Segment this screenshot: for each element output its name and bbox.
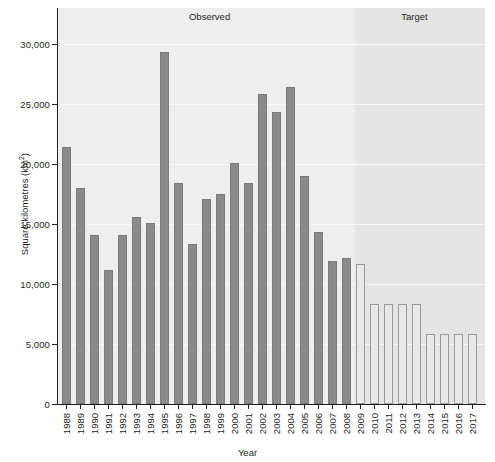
bar-2013 [412, 304, 421, 404]
x-tick-2003 [276, 405, 277, 409]
bar-2009 [356, 264, 365, 404]
x-tick-label-1993: 1993 [131, 413, 142, 434]
x-tick-label-2004: 2004 [285, 413, 296, 434]
bar-1992 [118, 235, 127, 404]
x-tick-2014 [430, 405, 431, 409]
x-tick-label-2001: 2001 [243, 413, 254, 434]
bars-layer [58, 8, 485, 404]
x-tick-1993 [136, 405, 137, 409]
x-tick-1999 [220, 405, 221, 409]
x-tick-2008 [346, 405, 347, 409]
x-tick-2012 [402, 405, 403, 409]
x-tick-2007 [332, 405, 333, 409]
x-tick-label-2009: 2009 [355, 413, 366, 434]
x-tick-label-2011: 2011 [383, 413, 394, 433]
y-axis-title-text: Square kilometres (km [19, 160, 30, 255]
x-tick-2006 [318, 405, 319, 409]
bar-2014 [426, 334, 435, 404]
x-tick-1996 [178, 405, 179, 409]
x-tick-label-2016: 2016 [453, 413, 464, 434]
bar-chart: 05,00010,00015,00020,00025,00030,000 198… [0, 0, 495, 462]
bar-2005 [300, 176, 309, 404]
bar-2015 [440, 334, 449, 404]
bar-2000 [230, 163, 239, 404]
x-tick-2005 [304, 405, 305, 409]
x-tick-label-1996: 1996 [173, 413, 184, 434]
bar-2002 [258, 94, 267, 404]
x-tick-1994 [150, 405, 151, 409]
x-tick-label-1994: 1994 [145, 413, 156, 434]
y-tick-label: 30,000 [0, 39, 50, 50]
y-tick-20000 [52, 164, 57, 165]
bar-1996 [174, 183, 183, 404]
bar-2016 [454, 334, 463, 404]
y-axis-title-superscript: 2 [18, 156, 25, 160]
y-tick-5000 [52, 344, 57, 345]
x-tick-2015 [444, 405, 445, 409]
x-tick-1991 [108, 405, 109, 409]
bar-2007 [328, 261, 337, 404]
x-tick-label-2006: 2006 [313, 413, 324, 434]
x-axis-title: Year [0, 447, 495, 458]
bar-1993 [132, 217, 141, 404]
y-axis-title: Square kilometres (km2) [18, 124, 30, 284]
bar-1995 [160, 52, 169, 404]
y-tick-0 [52, 404, 57, 405]
bar-1994 [146, 223, 155, 404]
x-tick-label-2013: 2013 [411, 413, 422, 434]
y-tick-label: 5,000 [0, 339, 50, 350]
x-tick-1995 [164, 405, 165, 409]
x-tick-2000 [234, 405, 235, 409]
x-tick-label-2010: 2010 [369, 413, 380, 434]
x-tick-2009 [360, 405, 361, 409]
y-tick-30000 [52, 44, 57, 45]
x-tick-1998 [206, 405, 207, 409]
y-tick-label: 25,000 [0, 99, 50, 110]
region-label-target: Target [401, 11, 427, 22]
y-tick-15000 [52, 224, 57, 225]
bar-1988 [62, 147, 71, 404]
y-axis-line [57, 8, 58, 404]
x-tick-1988 [66, 405, 67, 409]
bar-1989 [76, 188, 85, 404]
bar-2010 [370, 304, 379, 404]
x-tick-label-1992: 1992 [117, 413, 128, 434]
x-tick-1989 [80, 405, 81, 409]
bar-1991 [104, 270, 113, 404]
x-tick-label-2005: 2005 [299, 413, 310, 434]
y-tick-10000 [52, 284, 57, 285]
x-tick-label-1989: 1989 [75, 413, 86, 434]
x-tick-label-2012: 2012 [397, 413, 408, 434]
bar-1990 [90, 235, 99, 404]
x-tick-label-2015: 2015 [439, 413, 450, 434]
x-tick-label-2014: 2014 [425, 413, 436, 434]
x-tick-2011 [388, 405, 389, 409]
x-tick-label-2008: 2008 [341, 413, 352, 434]
x-tick-label-2007: 2007 [327, 413, 338, 434]
bar-2008 [342, 258, 351, 404]
x-tick-label-1990: 1990 [89, 413, 100, 434]
x-tick-2002 [262, 405, 263, 409]
y-tick-label: 0 [0, 399, 50, 410]
x-tick-label-2000: 2000 [229, 413, 240, 434]
x-tick-label-2003: 2003 [271, 413, 282, 434]
x-tick-label-1997: 1997 [187, 413, 198, 434]
bar-2011 [384, 304, 393, 404]
bar-2003 [272, 112, 281, 404]
x-tick-2010 [374, 405, 375, 409]
bar-2004 [286, 87, 295, 404]
x-tick-2001 [248, 405, 249, 409]
x-tick-2016 [458, 405, 459, 409]
x-tick-1990 [94, 405, 95, 409]
bar-2017 [468, 334, 477, 404]
x-tick-label-2017: 2017 [467, 413, 478, 434]
x-tick-2004 [290, 405, 291, 409]
x-tick-label-1988: 1988 [61, 413, 72, 434]
y-tick-25000 [52, 104, 57, 105]
y-axis-title-close-paren: ) [19, 153, 30, 156]
x-tick-2017 [472, 405, 473, 409]
x-tick-label-1998: 1998 [201, 413, 212, 434]
bar-1999 [216, 194, 225, 404]
bar-2001 [244, 183, 253, 404]
x-tick-1997 [192, 405, 193, 409]
